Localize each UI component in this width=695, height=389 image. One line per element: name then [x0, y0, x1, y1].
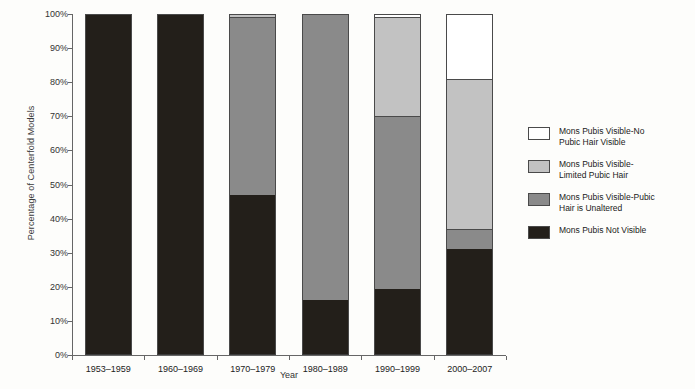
y-tick-label: 80%: [28, 77, 68, 87]
y-tick-label: 0%: [28, 350, 68, 360]
bar-segment: [157, 14, 204, 355]
swatch-not-visible: [528, 226, 550, 239]
chart-page: Percentage of Centerfold Models 0%10%20%…: [0, 0, 695, 389]
bar-segment: [446, 229, 493, 249]
bar-segment: [302, 300, 349, 355]
y-tick-mark: [68, 219, 72, 220]
x-tick-mark: [289, 356, 290, 360]
bar-segment: [374, 116, 421, 288]
y-tick-label: 50%: [28, 180, 68, 190]
y-tick-mark: [68, 82, 72, 83]
bar-segment: [374, 17, 421, 116]
bar-1960–1969[interactable]: [157, 14, 204, 355]
bar-segment: [229, 17, 276, 194]
y-tick-mark: [68, 287, 72, 288]
y-tick-mark: [68, 321, 72, 322]
y-tick-mark: [68, 14, 72, 15]
y-tick-label: 10%: [28, 316, 68, 326]
legend-item[interactable]: Mons Pubis Not Visible: [528, 225, 693, 239]
bar-1953–1959[interactable]: [85, 14, 132, 355]
x-tick-mark: [72, 356, 73, 360]
legend-item[interactable]: Mons Pubis Visible-Pubic Hair is Unalter…: [528, 192, 693, 214]
bar-2000–2007[interactable]: [446, 14, 493, 355]
bar-1980–1989[interactable]: [302, 14, 349, 355]
x-tick-mark: [217, 356, 218, 360]
swatch-limited-pubic-hair: [528, 160, 550, 173]
y-tick-mark: [68, 253, 72, 254]
bar-segment: [374, 289, 421, 355]
bar-segment: [85, 14, 132, 355]
y-axis-line: [72, 14, 73, 356]
y-tick-label: 100%: [28, 9, 68, 19]
bar-1990–1999[interactable]: [374, 14, 421, 355]
y-tick-mark: [68, 48, 72, 49]
plot-area: 0%10%20%30%40%50%60%70%80%90%100% 1953–1…: [72, 14, 506, 356]
y-tick-mark: [68, 116, 72, 117]
y-tick-label: 90%: [28, 43, 68, 53]
legend-item-label: Mons Pubis Visible-No Pubic Hair Visible: [559, 126, 644, 148]
y-tick-label: 60%: [28, 145, 68, 155]
y-tick-mark: [68, 185, 72, 186]
bar-segment: [229, 14, 276, 17]
legend-item-label: Mons Pubis Not Visible: [559, 225, 646, 236]
x-tick-mark: [434, 356, 435, 360]
y-tick-mark: [68, 150, 72, 151]
swatch-no-pubic-hair: [528, 127, 550, 140]
chart-legend: Mons Pubis Visible-No Pubic Hair Visible…: [528, 126, 693, 250]
bar-segment: [446, 249, 493, 355]
x-tick-mark: [144, 356, 145, 360]
swatch-unaltered: [528, 193, 550, 206]
legend-item[interactable]: Mons Pubis Visible-No Pubic Hair Visible: [528, 126, 693, 148]
y-tick-label: 40%: [28, 214, 68, 224]
legend-item-label: Mons Pubis Visible- Limited Pubic Hair: [559, 159, 634, 181]
y-tick-label: 30%: [28, 248, 68, 258]
x-axis-title: Year: [72, 370, 506, 380]
x-tick-mark: [506, 356, 507, 360]
bar-segment: [446, 79, 493, 229]
bar-segment: [446, 14, 493, 79]
legend-item[interactable]: Mons Pubis Visible- Limited Pubic Hair: [528, 159, 693, 181]
y-tick-label: 20%: [28, 282, 68, 292]
bar-1970–1979[interactable]: [229, 14, 276, 355]
bar-segment: [374, 14, 421, 17]
bar-segment: [229, 195, 276, 355]
bar-segment: [302, 14, 349, 300]
x-tick-mark: [361, 356, 362, 360]
legend-item-label: Mons Pubis Visible-Pubic Hair is Unalter…: [559, 192, 655, 214]
y-tick-label: 70%: [28, 111, 68, 121]
